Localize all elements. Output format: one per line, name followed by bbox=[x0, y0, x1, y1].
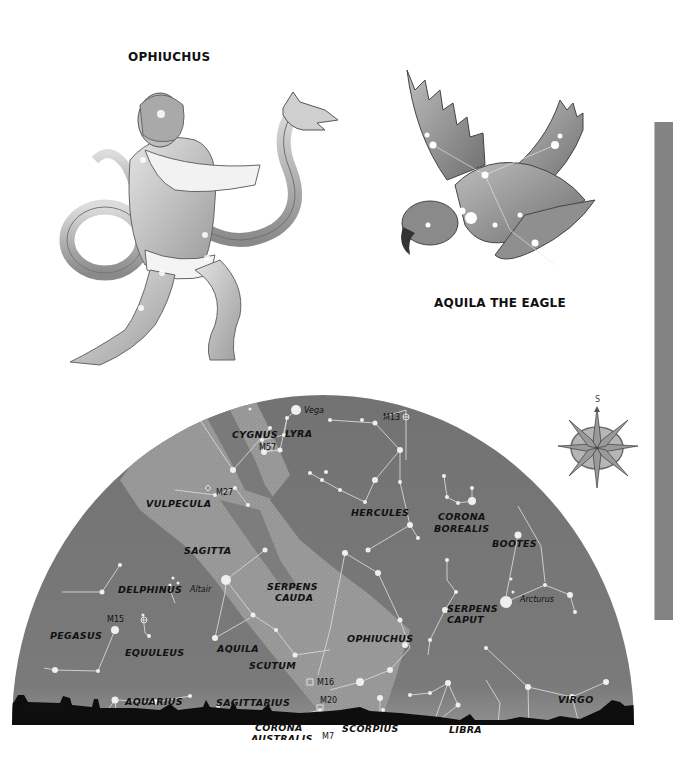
label-serpens-cauda-2: CAUDA bbox=[275, 592, 313, 603]
label-corona-australis-2: AUSTRALIS bbox=[250, 733, 313, 740]
ophiuchus-illustration bbox=[55, 90, 340, 380]
label-serpens-caput-1: SERPENS bbox=[447, 603, 498, 614]
label-m7: M7 bbox=[322, 732, 334, 740]
label-altair: Altair bbox=[189, 585, 212, 594]
label-vega: Vega bbox=[304, 406, 324, 415]
label-scorpius: SCORPIUS bbox=[342, 723, 399, 734]
label-sagittarius: SAGITTARIUS bbox=[216, 697, 290, 708]
label-cygnus: CYGNUS bbox=[232, 429, 278, 440]
label-corona-australis-1: CORONA bbox=[255, 722, 303, 733]
label-delphinus: DELPHINUS bbox=[118, 584, 182, 595]
label-aquila: AQUILA bbox=[216, 643, 259, 654]
label-equuleus: EQUULEUS bbox=[125, 647, 185, 658]
ophiuchus-title: OPHIUCHUS bbox=[128, 50, 210, 64]
label-corona-borealis-2: BOREALIS bbox=[434, 523, 489, 534]
label-pegasus: PEGASUS bbox=[50, 630, 102, 641]
sky-chart: CYGNUS LYRA VULPECULA SAGITTA HERCULES C… bbox=[0, 380, 672, 740]
label-vulpecula: VULPECULA bbox=[146, 498, 211, 509]
label-serpens-caput-2: CAPUT bbox=[447, 614, 485, 625]
label-pisces: PISCES bbox=[25, 701, 64, 712]
label-scutum: SCUTUM bbox=[249, 660, 296, 671]
label-m27: M27 bbox=[216, 488, 233, 497]
label-virgo: VIRGO bbox=[558, 694, 594, 705]
label-m16: M16 bbox=[317, 678, 334, 687]
label-lyra: LYRA bbox=[285, 428, 312, 439]
label-m20: M20 bbox=[320, 696, 337, 705]
label-arcturus: Arcturus bbox=[519, 595, 554, 604]
label-antares: Antares bbox=[357, 714, 389, 723]
label-bootes: BOOTES bbox=[492, 538, 537, 549]
label-m13: M13 bbox=[383, 413, 400, 422]
label-m8: M8 bbox=[327, 711, 339, 720]
label-ophiuchus: OPHIUCHUS bbox=[347, 633, 413, 644]
label-aquarius: AQUARIUS bbox=[124, 696, 183, 707]
label-serpens-cauda-1: SERPENS bbox=[267, 581, 318, 592]
aquila-title: AQUILA THE EAGLE bbox=[434, 296, 566, 310]
label-m57: M57 bbox=[259, 443, 276, 452]
label-m15: M15 bbox=[107, 615, 124, 624]
aquila-illustration bbox=[385, 65, 605, 275]
label-sagitta: SAGITTA bbox=[184, 545, 231, 556]
label-corona-borealis-1: CORONA bbox=[438, 511, 486, 522]
label-libra: LIBRA bbox=[449, 724, 482, 735]
label-hercules: HERCULES bbox=[351, 507, 409, 518]
